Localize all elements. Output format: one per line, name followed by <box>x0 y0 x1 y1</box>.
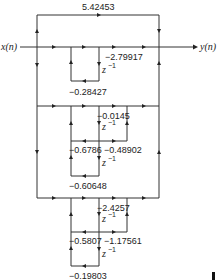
section-3: −2.4257 z −1 −0.5807 −1.17561 z −1 −0.19… <box>69 198 142 280</box>
arrow-up-icon <box>69 246 73 250</box>
section2-feedback2: −0.60648 <box>69 181 107 191</box>
section3-delay1-exp: −1 <box>108 211 116 218</box>
corner-mark <box>212 272 215 280</box>
arrow-up-icon <box>125 121 129 125</box>
section3-feedback1: −0.5807 <box>69 236 102 246</box>
arrow-left-icon <box>82 79 86 83</box>
section-2: −0.0145 z −1 −0.6786 −0.48902 z −1 −0.60… <box>69 106 142 191</box>
section3-delay2-exp: −1 <box>108 246 116 253</box>
signal-flow-diagram: 5.42453 x(n) y(n) −2.79917 z −1 −0.28427 <box>0 0 218 280</box>
section-2-bus <box>37 104 159 108</box>
section3-delay1: z <box>101 213 106 224</box>
section2-gain-b: −0.48902 <box>104 145 142 155</box>
arrow-right-icon <box>97 13 101 17</box>
arrow-right-icon <box>142 104 146 108</box>
section2-delay2: z <box>101 157 106 168</box>
section2-delay1-exp: −1 <box>108 119 116 126</box>
arrow-up-icon <box>35 29 39 33</box>
arrow-right-icon <box>82 196 86 200</box>
arrow-right-icon <box>112 230 116 234</box>
section-3-bus <box>37 196 159 200</box>
arrow-right-icon <box>52 196 56 200</box>
arrow-down-icon <box>97 156 101 160</box>
arrow-right-icon <box>112 104 116 108</box>
arrow-down-icon <box>97 62 101 66</box>
arrow-right-icon <box>112 139 116 143</box>
arrow-up-icon <box>157 150 161 154</box>
section1-delay-exp: −1 <box>108 62 116 69</box>
arrow-right-icon <box>82 45 86 49</box>
arrow-left-icon <box>82 264 86 268</box>
arrow-right-icon <box>112 45 116 49</box>
arrow-right-icon <box>52 45 56 49</box>
arrow-right-icon <box>52 104 56 108</box>
section1-gain: −2.79917 <box>105 52 143 62</box>
arrow-up-icon <box>69 121 73 125</box>
section2-delay1: z <box>101 121 106 132</box>
arrow-down-icon <box>35 63 39 67</box>
section-1: −2.79917 z −1 −0.28427 <box>69 47 143 97</box>
arrow-right-icon <box>193 45 198 50</box>
arrow-up-icon <box>157 61 161 65</box>
arrow-down-icon <box>97 121 101 125</box>
arrow-left-icon <box>82 139 86 143</box>
output-label: y(n) <box>199 41 217 53</box>
arrow-left-icon <box>82 174 86 178</box>
section1-feedback: −0.28427 <box>69 87 107 97</box>
section3-delay2: z <box>101 248 106 259</box>
arrow-down-icon <box>35 150 39 154</box>
arrow-up-icon <box>69 212 73 216</box>
arrow-right-icon <box>142 196 146 200</box>
arrow-right-icon <box>82 104 86 108</box>
arrow-down-icon <box>97 247 101 251</box>
arrow-up-icon <box>69 60 73 64</box>
arrow-right-icon <box>142 45 146 49</box>
section2-feedback1: −0.6786 <box>69 145 102 155</box>
section3-gain-b: −1.17561 <box>104 236 142 246</box>
feedforward-gain: 5.42453 <box>82 2 115 12</box>
arrow-up-icon <box>69 155 73 159</box>
arrow-left-icon <box>82 230 86 234</box>
input-label: x(n) <box>0 41 18 53</box>
arrow-down-icon <box>157 29 161 33</box>
section1-delay: z <box>101 64 106 75</box>
section2-delay2-exp: −1 <box>108 155 116 162</box>
section3-feedback2: −0.19803 <box>69 271 107 280</box>
arrow-right-icon <box>112 196 116 200</box>
feedforward-path: 5.42453 <box>35 2 161 47</box>
